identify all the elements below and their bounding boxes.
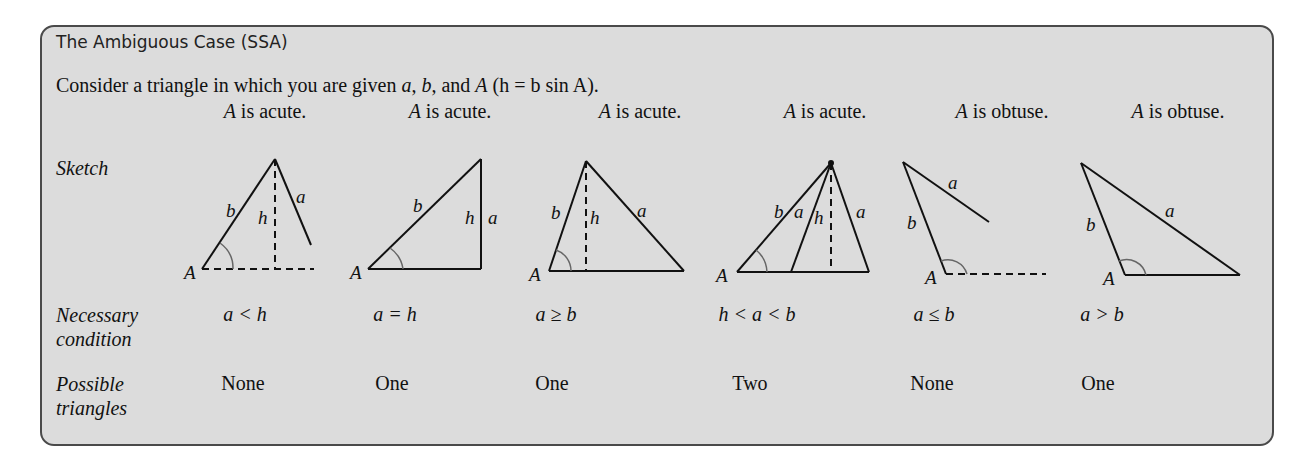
svg-text:A: A — [182, 262, 196, 283]
svg-text:h: h — [465, 207, 475, 228]
svg-text:b: b — [413, 195, 423, 216]
svg-text:b: b — [1086, 214, 1096, 235]
svg-text:h: h — [590, 207, 600, 228]
sketch-3 — [549, 161, 684, 271]
sketch-6 — [1081, 163, 1240, 275]
svg-text:a: a — [948, 172, 958, 193]
svg-text:b: b — [551, 202, 561, 223]
svg-text:a: a — [488, 207, 498, 228]
triangle-sketches: A b h a A b h a A b h a A b a h a A b a … — [0, 0, 1311, 466]
svg-text:A: A — [714, 265, 728, 286]
svg-text:b: b — [774, 201, 784, 222]
svg-text:a: a — [794, 201, 804, 222]
svg-text:A: A — [527, 264, 541, 285]
svg-text:h: h — [258, 207, 268, 228]
svg-text:A: A — [923, 267, 937, 288]
svg-text:b: b — [907, 212, 917, 233]
svg-text:a: a — [296, 186, 306, 207]
svg-text:a: a — [1165, 200, 1175, 221]
svg-text:A: A — [1101, 268, 1115, 289]
svg-text:a: a — [856, 201, 866, 222]
svg-text:b: b — [226, 200, 236, 221]
svg-text:a: a — [637, 200, 647, 221]
svg-text:A: A — [348, 262, 362, 283]
svg-text:h: h — [814, 207, 824, 228]
sketch-5 — [903, 162, 1046, 274]
